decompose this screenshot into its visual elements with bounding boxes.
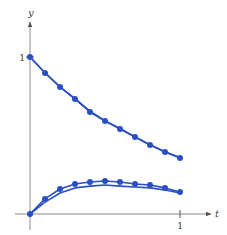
y-tick-1-label: 1: [19, 52, 25, 63]
lower-approximation-point: [72, 181, 78, 187]
y-axis-label: y: [27, 7, 34, 18]
chart: t y 1 1: [0, 0, 227, 235]
lower-approximation-point: [117, 179, 123, 185]
upper-approximation-line: [30, 57, 180, 158]
series-layer: [27, 54, 183, 217]
x-axis-label: t: [215, 208, 220, 219]
upper-exact-line: [30, 57, 180, 158]
lower-approximation-point: [102, 178, 108, 184]
x-tick-1-label: 1: [177, 220, 183, 231]
lower-approximation-point: [87, 179, 93, 185]
lower-approximation-point: [57, 186, 63, 192]
lower-exact-line: [30, 185, 180, 214]
